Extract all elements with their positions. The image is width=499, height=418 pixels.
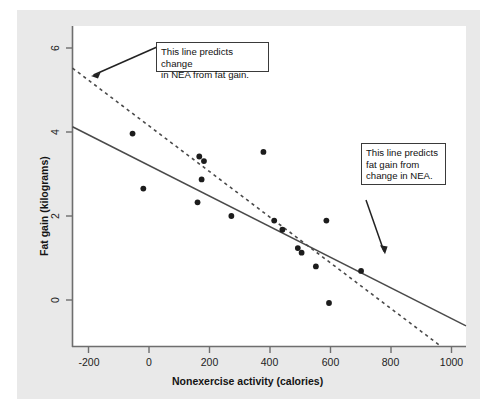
x-tick-label: 600: [317, 356, 344, 368]
x-axis-title: Nonexercise activity (calories): [172, 375, 323, 387]
data-point: [295, 245, 301, 251]
callout-left-line-1: This line predicts change: [161, 46, 264, 69]
callout-left-line-2: in NEA from fat gain.: [161, 69, 264, 81]
callout-left: This line predicts change in NEA from fa…: [156, 42, 269, 72]
y-axis-ticks: [66, 48, 72, 300]
callout-right-line-2: fat gain from: [366, 159, 441, 171]
y-tick-label: 0: [49, 293, 61, 307]
data-point: [326, 300, 332, 306]
data-point: [199, 176, 205, 182]
x-tick-label: 800: [377, 356, 404, 368]
x-tick-label: 400: [256, 356, 283, 368]
y-tick-label: 6: [49, 41, 61, 55]
y-tick-label: 2: [49, 209, 61, 223]
callout-right-line-3: change in NEA.: [366, 170, 441, 182]
data-point: [130, 131, 136, 137]
data-point: [196, 154, 202, 160]
y-axis-title: Fat gain (kilograms): [38, 156, 50, 256]
data-point: [323, 218, 329, 224]
data-point: [279, 227, 285, 233]
callout-right-arrow-line: [366, 200, 384, 252]
data-point: [201, 158, 207, 164]
data-point: [228, 213, 234, 219]
callout-right-line-1: This line predicts: [366, 147, 441, 159]
data-points: [130, 131, 364, 306]
data-point: [358, 268, 364, 274]
data-point: [299, 250, 305, 256]
axes: [72, 26, 466, 347]
y-tick-label: 4: [49, 125, 61, 139]
data-point: [195, 199, 201, 205]
figure-container: -200 0 200 400 600 800 1000 6 4 2 0 Fat …: [0, 0, 499, 418]
x-tick-label: 0: [139, 356, 159, 368]
x-tick-label: 200: [196, 356, 223, 368]
x-axis-ticks: [89, 347, 452, 353]
regression-line-dashed: [73, 68, 442, 346]
data-point: [271, 218, 277, 224]
data-point: [261, 149, 267, 155]
x-tick-label: -200: [76, 356, 102, 368]
callout-right-arrow-head: [380, 245, 388, 254]
data-point: [313, 263, 319, 269]
callout-right: This line predicts fat gain from change …: [361, 143, 446, 185]
x-tick-label: 1000: [435, 356, 468, 368]
data-point: [140, 186, 146, 192]
callout-left-arrow-line: [94, 47, 158, 75]
